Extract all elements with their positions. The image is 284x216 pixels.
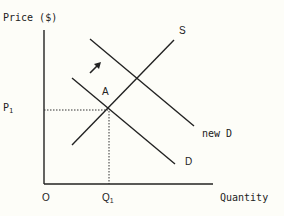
new-demand-curve xyxy=(90,39,194,126)
supply-label: S xyxy=(179,25,186,36)
x-axis-label: Quantity xyxy=(220,192,268,203)
point-a-label: A xyxy=(102,86,109,97)
quantity-q1-label: Q1 xyxy=(102,192,114,206)
shift-right-arrow-icon xyxy=(90,62,101,73)
demand-label: D xyxy=(185,156,192,167)
diagram-canvas xyxy=(0,0,284,216)
new-demand-label: new D xyxy=(202,128,232,139)
demand-curve xyxy=(72,78,175,164)
origin-label: O xyxy=(42,192,50,203)
supply-curve xyxy=(72,40,174,145)
y-axis-label: Price ($) xyxy=(3,12,57,23)
price-p1-label: P1 xyxy=(3,102,13,117)
